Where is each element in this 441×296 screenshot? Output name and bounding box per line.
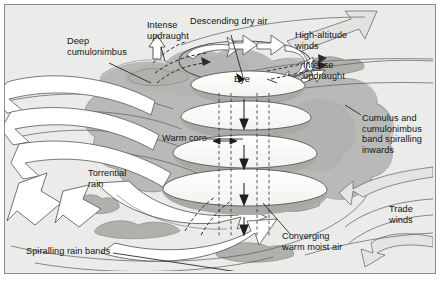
label-converging-warm-moist-air: Converging warm moist air — [282, 231, 342, 252]
label-eye: Eye — [234, 74, 250, 85]
diagram-frame: Deep cumulonimbus Intense updraught Desc… — [4, 4, 436, 274]
label-high-altitude-winds: High-altitude winds — [295, 30, 347, 51]
label-deep-cumulonimbus: Deep cumulonimbus — [67, 36, 127, 57]
label-descending-dry-air: Descending dry air — [190, 16, 268, 27]
label-torrential-rain: Torrential rain — [88, 168, 126, 189]
label-trade-winds: Trade winds — [389, 204, 413, 225]
diagram-stage: Deep cumulonimbus Intense updraught Desc… — [0, 0, 441, 296]
label-intense-updraught-left: Intense updraught — [147, 20, 189, 41]
label-spiralling-rain-bands: Spiralling rain bands — [26, 246, 110, 257]
label-cumulus-band: Cumulus and cumulonimbus band spiralling… — [362, 113, 422, 155]
label-warm-core: Warm core — [162, 133, 207, 144]
label-intense-updraught-right: Intense updraught — [303, 60, 345, 81]
